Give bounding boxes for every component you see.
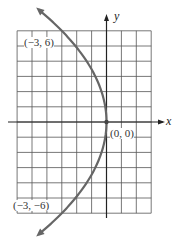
point-label-top: (−3, 6) (24, 37, 54, 48)
y-axis-label: y (114, 9, 119, 24)
x-axis-label: x (166, 114, 171, 129)
point-label-bottom: (−3, −6) (13, 200, 49, 211)
point-label-origin: (0, 0) (110, 128, 134, 139)
origin-point (104, 120, 108, 124)
